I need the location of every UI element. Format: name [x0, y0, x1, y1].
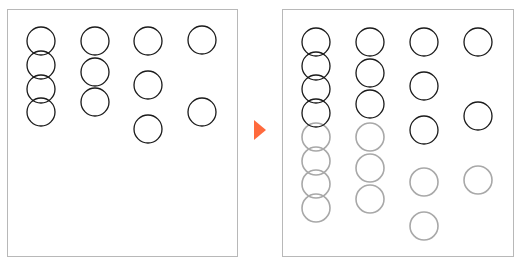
diagram-canvas: [0, 0, 522, 264]
panel-before: [8, 10, 238, 257]
panel-frame: [8, 10, 238, 257]
arrow-right-icon: [254, 120, 266, 140]
panel-frame: [283, 10, 514, 257]
panel-after: [283, 10, 514, 257]
